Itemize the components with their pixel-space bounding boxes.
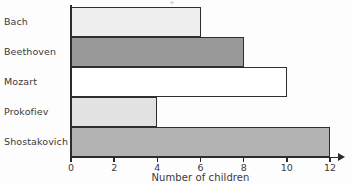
x-tick-2 bbox=[113, 157, 114, 162]
x-axis-line bbox=[70, 157, 340, 159]
bar-prokofiev bbox=[71, 97, 157, 127]
bar-row bbox=[71, 37, 330, 67]
category-label-shostakovich: Shostakovich bbox=[4, 137, 68, 147]
x-tick-label-12: 12 bbox=[324, 163, 336, 173]
x-tick-label-0: 0 bbox=[68, 163, 74, 173]
y-axis-line bbox=[70, 5, 72, 159]
x-tick-label-10: 10 bbox=[281, 163, 293, 173]
x-tick-10 bbox=[286, 157, 287, 162]
x-tick-4 bbox=[157, 157, 158, 162]
category-label-prokofiev: Prokofiev bbox=[4, 107, 68, 117]
bar-shostakovich bbox=[71, 127, 330, 157]
category-label-mozart: Mozart bbox=[4, 77, 68, 87]
bar-bach bbox=[71, 7, 201, 37]
bar-chart: Bach Beethoven Mozart Prokofiev Shostako… bbox=[0, 0, 353, 185]
plot-area bbox=[71, 7, 330, 157]
category-label-beethoven: Beethoven bbox=[4, 47, 68, 57]
scan-artifact bbox=[170, 1, 174, 4]
bar-mozart bbox=[71, 67, 287, 97]
category-label-bach: Bach bbox=[4, 17, 68, 27]
x-axis-arrow-icon bbox=[338, 153, 345, 161]
x-tick-6 bbox=[200, 157, 201, 162]
x-axis-title: Number of children bbox=[71, 173, 330, 183]
bar-row bbox=[71, 127, 330, 157]
x-tick-0 bbox=[70, 157, 71, 162]
x-tick-12 bbox=[329, 157, 330, 162]
bar-row bbox=[71, 97, 330, 127]
bar-row bbox=[71, 7, 330, 37]
x-tick-8 bbox=[243, 157, 244, 162]
bar-row bbox=[71, 67, 330, 97]
x-tick-label-2: 2 bbox=[111, 163, 117, 173]
bar-beethoven bbox=[71, 37, 244, 67]
